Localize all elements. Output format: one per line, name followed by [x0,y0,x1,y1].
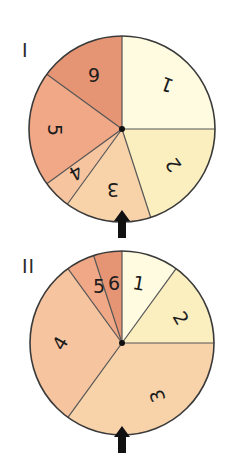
slice-label: 3 [107,179,119,201]
spinner-wheels: 123456123456 [0,0,233,458]
wheel-1: 123456 [29,36,215,238]
slice-label: 5 [93,275,105,297]
pivot-dot-icon [119,340,125,346]
slice-label: 6 [108,272,120,294]
wheel-2: 123456 [30,251,214,453]
slice-label: 5 [44,124,66,136]
wheel-2-title: II [22,256,35,276]
spinner-figure: I II 123456123456 [0,0,233,458]
slice-label: 6 [88,64,100,86]
wheel-1-title: I [22,40,29,60]
pivot-dot-icon [119,126,125,132]
